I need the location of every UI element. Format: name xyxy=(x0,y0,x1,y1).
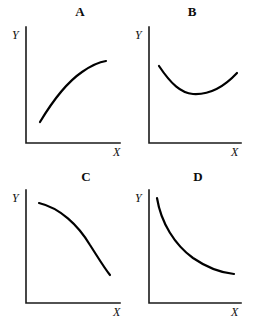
panel-b: B Y X xyxy=(127,0,254,163)
panel-b-axes xyxy=(149,27,241,143)
panel-c-curve xyxy=(39,203,110,275)
panel-a-plot xyxy=(0,0,127,163)
panel-d-axes xyxy=(149,190,241,303)
panel-d: D Y X xyxy=(127,163,254,325)
panel-b-plot xyxy=(127,0,254,163)
panel-c: C Y X xyxy=(0,163,127,325)
panel-a: A Y X xyxy=(0,0,127,163)
panel-b-curve xyxy=(159,66,237,94)
panel-c-plot xyxy=(0,163,127,325)
figure-root: A Y X B Y X C Y X D Y X xyxy=(0,0,254,325)
panel-a-axes xyxy=(26,27,120,143)
panel-c-axes xyxy=(26,190,120,303)
panel-d-curve xyxy=(157,198,234,274)
panel-a-curve xyxy=(40,61,106,122)
panel-d-plot xyxy=(127,163,254,325)
